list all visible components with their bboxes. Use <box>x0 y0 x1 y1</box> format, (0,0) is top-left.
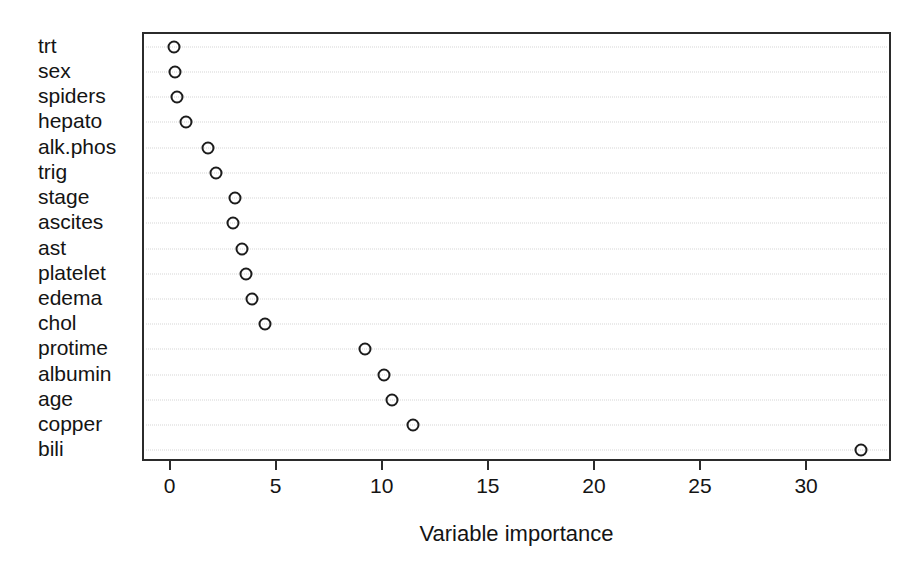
x-axis-tick <box>699 461 701 470</box>
gridline <box>146 349 887 350</box>
gridline <box>146 97 887 98</box>
x-axis-tick <box>381 461 383 470</box>
data-point <box>235 242 248 255</box>
y-axis-label: ascites <box>38 211 103 232</box>
y-axis-label: spiders <box>38 85 106 106</box>
data-point <box>386 393 399 406</box>
data-point <box>407 419 420 432</box>
y-axis-label: edema <box>38 286 102 307</box>
x-axis-tick <box>169 461 171 470</box>
y-axis-label: alk.phos <box>38 135 116 156</box>
y-axis-label: trig <box>38 160 67 181</box>
x-axis-title: Variable importance <box>142 521 891 547</box>
x-axis-tick <box>487 461 489 470</box>
x-axis-tick <box>805 461 807 470</box>
data-point <box>855 444 868 457</box>
data-point <box>358 343 371 356</box>
gridline <box>146 147 887 148</box>
y-axis-label: copper <box>38 413 102 434</box>
gridline <box>146 46 887 47</box>
x-axis: 051015202530 <box>142 461 891 521</box>
data-point <box>258 318 271 331</box>
y-axis-label: age <box>38 387 73 408</box>
data-point <box>180 116 193 129</box>
y-axis-label: trt <box>38 34 57 55</box>
y-axis-label: hepato <box>38 110 102 131</box>
x-axis-tick-label: 20 <box>582 475 605 497</box>
x-axis-tick <box>275 461 277 470</box>
y-axis-label: sex <box>38 59 71 80</box>
data-point <box>227 217 240 230</box>
gridline <box>146 198 887 199</box>
variable-importance-dotplot: trtsexspidershepatoalk.phostrigstageasci… <box>0 0 924 576</box>
x-axis-tick-label: 30 <box>794 475 817 497</box>
y-axis-label: protime <box>38 337 108 358</box>
gridline <box>146 223 887 224</box>
gridline <box>146 122 887 123</box>
plot-area-inner <box>144 34 889 459</box>
y-axis-label: ast <box>38 236 66 257</box>
x-axis-tick <box>593 461 595 470</box>
y-axis-category-labels: trtsexspidershepatoalk.phostrigstageasci… <box>38 32 138 461</box>
data-point <box>377 368 390 381</box>
x-axis-tick-label: 15 <box>476 475 499 497</box>
y-axis-label: chol <box>38 312 77 333</box>
y-axis-label: albumin <box>38 362 112 383</box>
gridline <box>146 71 887 72</box>
data-point <box>229 192 242 205</box>
gridline <box>146 374 887 375</box>
data-point <box>246 292 259 305</box>
gridline <box>146 425 887 426</box>
data-point <box>168 65 181 78</box>
y-axis-label: bili <box>38 438 64 459</box>
y-axis-label: platelet <box>38 261 106 282</box>
gridline <box>146 450 887 451</box>
gridline <box>146 273 887 274</box>
x-axis-tick-label: 10 <box>370 475 393 497</box>
y-axis-label: stage <box>38 186 89 207</box>
x-axis-tick-label: 25 <box>688 475 711 497</box>
data-point <box>239 267 252 280</box>
x-axis-tick-label: 5 <box>270 475 282 497</box>
data-point <box>210 166 223 179</box>
data-point <box>170 91 183 104</box>
x-axis-tick-label: 0 <box>164 475 176 497</box>
data-point <box>167 40 180 53</box>
gridline <box>146 172 887 173</box>
gridline <box>146 399 887 400</box>
gridline <box>146 324 887 325</box>
data-point <box>201 141 214 154</box>
gridline <box>146 248 887 249</box>
plot-area-frame <box>142 32 891 461</box>
